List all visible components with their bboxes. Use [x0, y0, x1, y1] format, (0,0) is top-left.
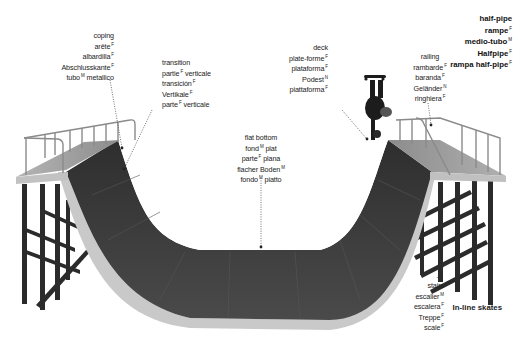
- title-term: HalfpipeF: [450, 47, 512, 59]
- label-railing: railing rambardeF barandaF GeländerN rin…: [408, 53, 452, 104]
- title-terms: half-pipe rampeF medio-tuboM HalfpipeF r…: [450, 14, 512, 70]
- half-pipe-diagram: half-pipe rampeF medio-tuboM HalfpipeF r…: [0, 0, 522, 340]
- title-term: medio-tuboM: [450, 35, 512, 47]
- label-deck: deck plate-formeF plataformaF PodestN pi…: [289, 44, 328, 95]
- section-footer: In-line skates: [453, 303, 502, 312]
- label-flat-bottom: flat bottom fondM plat parteF plana flac…: [218, 134, 304, 185]
- title-term: rampeF: [450, 24, 512, 36]
- label-coping: coping arêteF albardillaF Abschlusskante…: [61, 32, 114, 83]
- skater-figure: [364, 75, 392, 140]
- title-term: rampa half-pipeF: [450, 58, 512, 70]
- label-transition: transition partieF verticale transiciónF…: [162, 59, 211, 110]
- label-stairs: stairs escalierM escaleraF TreppeF scale…: [414, 282, 444, 333]
- title-term: half-pipe: [450, 14, 512, 24]
